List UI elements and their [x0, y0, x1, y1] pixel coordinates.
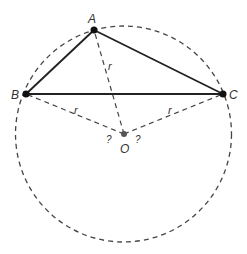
vertex-B-label: B: [11, 88, 19, 102]
unknown-angle-label-left: ?: [106, 134, 112, 145]
vertex-A-point: [91, 27, 98, 34]
vertex-C-label: C: [229, 88, 238, 102]
vertex-B-point: [23, 91, 30, 98]
center-O-point: [121, 131, 127, 137]
circumcircle-diagram: A B C O r r r ? ?: [0, 0, 247, 254]
vertex-C-point: [220, 91, 227, 98]
radius-label-OB: r: [74, 104, 79, 116]
radius-OC: [124, 94, 223, 134]
vertex-A-label: A: [87, 12, 96, 26]
unknown-angle-label-right: ?: [135, 134, 141, 145]
center-O-label: O: [120, 142, 129, 156]
side-AB: [26, 30, 94, 94]
radius-label-OC: r: [168, 104, 173, 116]
radius-OA: [94, 30, 124, 134]
radius-label-OA: r: [108, 60, 113, 72]
